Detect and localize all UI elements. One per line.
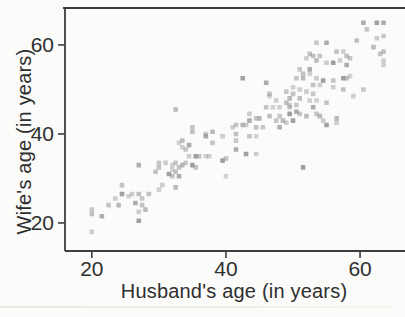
data-point (264, 80, 269, 85)
x-tick-label: 40 (214, 257, 237, 280)
data-point (254, 152, 259, 157)
data-point (287, 112, 292, 117)
data-point (183, 147, 188, 152)
data-point (190, 125, 195, 130)
data-point (354, 38, 359, 43)
data-point (247, 134, 252, 139)
data-point (261, 125, 266, 130)
data-point (301, 72, 306, 77)
data-point (297, 96, 302, 101)
data-point (341, 87, 346, 92)
x-tick-label: 20 (80, 257, 103, 280)
data-point (307, 52, 312, 57)
data-point (271, 105, 276, 110)
data-point (381, 49, 386, 54)
data-point (136, 210, 141, 215)
data-point (90, 230, 95, 235)
data-point (348, 56, 353, 61)
data-point (170, 174, 175, 179)
x-axis-title: Husband's age (in years) (63, 280, 405, 303)
data-point (324, 60, 329, 65)
data-point (324, 100, 329, 105)
data-point (210, 129, 215, 134)
data-point (197, 154, 202, 159)
data-point (314, 58, 319, 63)
data-point (321, 118, 326, 123)
data-point (207, 154, 212, 159)
data-point (277, 105, 282, 110)
x-tick-label: 60 (348, 257, 371, 280)
data-point (294, 76, 299, 81)
data-point (157, 161, 162, 166)
data-point (254, 134, 259, 139)
data-point (284, 89, 289, 94)
data-point (297, 67, 302, 72)
data-point (311, 105, 316, 110)
data-point (140, 203, 145, 208)
data-point (173, 169, 178, 174)
data-point (234, 132, 239, 137)
data-point (204, 134, 209, 139)
data-point (130, 192, 135, 197)
data-point (240, 76, 245, 81)
data-point (136, 218, 141, 223)
data-point (351, 94, 356, 99)
data-point (287, 96, 292, 101)
data-point (314, 76, 319, 81)
data-point (160, 183, 165, 188)
data-point (381, 63, 386, 68)
data-point (291, 118, 296, 123)
data-point (324, 123, 329, 128)
data-point (220, 134, 225, 139)
data-point (193, 165, 198, 170)
data-point (244, 152, 249, 157)
data-point (307, 67, 312, 72)
data-point (274, 98, 279, 103)
data-point (257, 116, 262, 121)
data-point (224, 156, 229, 161)
data-point (314, 98, 319, 103)
data-point (307, 98, 312, 103)
data-point (304, 114, 309, 119)
data-point (348, 74, 353, 79)
data-point (321, 78, 326, 83)
y-axis-title: Wife's age (in years) (13, 42, 36, 242)
data-point (234, 138, 239, 143)
data-point (361, 20, 366, 25)
data-point (163, 161, 168, 166)
data-point (234, 123, 239, 128)
scan-artifact-line (0, 306, 392, 308)
data-point (334, 116, 339, 121)
data-point (318, 83, 323, 88)
data-point (341, 49, 346, 54)
data-point (264, 105, 269, 110)
data-point (301, 165, 306, 170)
data-point (375, 20, 380, 25)
data-point (120, 183, 125, 188)
data-point (364, 27, 369, 32)
data-point (187, 143, 192, 148)
scatter-figure: 204060204060 Wife's age (in years) Husba… (0, 0, 405, 317)
data-point (173, 185, 178, 190)
data-point (210, 141, 215, 146)
data-point (361, 87, 366, 92)
data-point (314, 40, 319, 45)
data-point (140, 196, 145, 201)
scatter-plot-canvas: 204060204060 (0, 0, 405, 317)
data-point (106, 203, 111, 208)
data-point (183, 161, 188, 166)
data-point (381, 34, 386, 39)
data-point (338, 58, 343, 63)
data-point (277, 125, 282, 130)
data-point (304, 89, 309, 94)
data-point (304, 56, 309, 61)
data-point (147, 192, 152, 197)
data-point (371, 45, 376, 50)
data-point (90, 207, 95, 212)
data-point (113, 196, 118, 201)
data-point (116, 203, 121, 208)
data-point (277, 114, 282, 119)
data-point (334, 121, 339, 126)
data-point (224, 174, 229, 179)
data-point (311, 83, 316, 88)
